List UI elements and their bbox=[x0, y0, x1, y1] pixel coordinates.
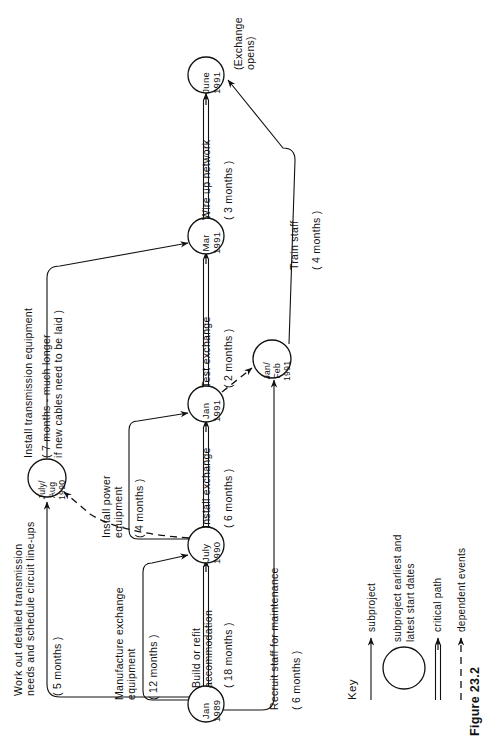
edge-label-install-exchange: Install exchange bbox=[200, 447, 212, 528]
edge-label-manufacture-exchange-equipment: Manufacture exchange equipment bbox=[113, 587, 138, 700]
edge-label-test-exchange: Test exchange bbox=[200, 316, 212, 388]
edge-duration-train-staff: ( 4 months ) bbox=[310, 210, 322, 270]
edge-duration-install-power-equipment: ( 4 months ) bbox=[133, 478, 145, 538]
edge-label-build-or-refit-accommodation: Build or refit accommodation bbox=[190, 610, 215, 688]
key-symbol-critical-path-arrow bbox=[436, 638, 441, 700]
node-label-june-1991: June 1991 bbox=[200, 72, 222, 94]
figure-caption: Figure 23.2 bbox=[468, 667, 483, 736]
edge-duration-manufacture-exchange-equipment: ( 12 months ) bbox=[147, 634, 159, 700]
node-label-july-aug-1990: July/ Aug 1990 bbox=[37, 480, 67, 500]
node-label-july-1990: July 1990 bbox=[200, 542, 222, 564]
edge-label-install-transmission-equipment: Install transmission equipment bbox=[22, 308, 34, 458]
edge-dependent-july1990-to-julyaug1990 bbox=[64, 492, 189, 538]
node-label-mar-1991: Mar 1991 bbox=[200, 232, 222, 254]
edge-train-staff bbox=[228, 80, 295, 344]
edge-label-work-out-transmission-needs: Work out detailed transmission needs and… bbox=[12, 521, 37, 696]
edge-label-train-staff: Train staff bbox=[288, 221, 300, 270]
key-label-dependent-events: dependent events bbox=[456, 548, 469, 632]
edge-label-wire-up-network: Wire up network bbox=[200, 140, 212, 220]
key-symbol-node-circle bbox=[383, 647, 425, 689]
edge-duration-test-exchange: ( 2 months ) bbox=[222, 328, 234, 388]
key-title: Key bbox=[346, 679, 360, 700]
edge-duration-work-out-transmission-needs: ( 5 months ) bbox=[51, 636, 63, 696]
edge-duration-wire-up-network: ( 3 months ) bbox=[222, 160, 234, 220]
edge-label-install-power-equipment: Install power equipment bbox=[100, 475, 125, 538]
figure-page: Jan 1989 July 1990 Jan 1991 Mar 1991 Jun… bbox=[0, 0, 483, 744]
node-label-jan-1991: Jan 1991 bbox=[200, 400, 222, 422]
edge-duration-recruit-staff-for-maintenance: ( 6 months ) bbox=[290, 650, 302, 710]
node-label-jan-1989: Jan 1989 bbox=[200, 700, 222, 722]
edge-install-transmission-equipment bbox=[47, 243, 188, 458]
annotation-exchange-opens: (Exchange opens) bbox=[232, 17, 257, 70]
edge-duration-install-transmission-equipment: ( 7 months - much longer if new cables n… bbox=[40, 310, 65, 458]
edge-duration-build-or-refit-accommodation: ( 18 months ) bbox=[222, 622, 234, 688]
key-label-critical-path: critical path bbox=[432, 578, 445, 632]
key-label-subproject-dates: subproject earliest and latest start dat… bbox=[392, 534, 417, 642]
edge-duration-install-exchange: ( 6 months ) bbox=[222, 468, 234, 528]
edge-label-recruit-staff-for-maintenance: Recruit staff for maintenance bbox=[268, 567, 280, 710]
key-label-subproject: subproject bbox=[366, 583, 379, 632]
node-label-jan-feb-1991: Jan/ Feb 1991 bbox=[262, 361, 292, 381]
